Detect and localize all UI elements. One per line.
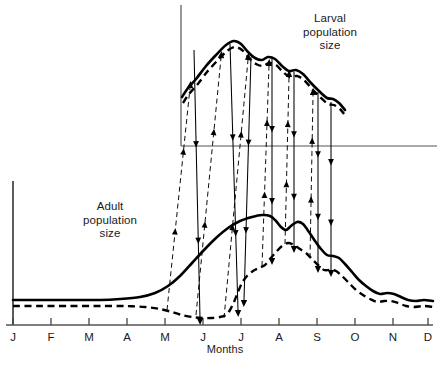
arrowhead	[202, 221, 208, 228]
figure-canvas	[0, 0, 437, 367]
x-tick-label-2: M	[81, 331, 97, 343]
arrowhead	[180, 148, 186, 155]
recruitment-arrow	[196, 58, 221, 315]
arrowhead	[291, 194, 297, 200]
x-axis-ticks	[13, 318, 428, 325]
x-axis-title: Months	[182, 343, 268, 356]
arrowhead	[230, 134, 236, 141]
arrowhead	[328, 220, 334, 226]
arrowhead	[238, 131, 244, 138]
arrowhead	[233, 230, 239, 237]
population-cycle-figure: Larval population size Adult population …	[0, 0, 437, 367]
larval-population-label: Larval population size	[272, 12, 388, 53]
arrowhead	[315, 151, 321, 157]
x-tick-label-10: N	[385, 331, 401, 343]
recruitment-arrow	[285, 77, 289, 244]
arrowhead	[291, 131, 297, 137]
arrowhead	[328, 159, 334, 165]
larval-dashed-curve	[183, 47, 344, 114]
arrowhead	[284, 181, 290, 188]
x-tick-label-0: J	[5, 331, 21, 343]
x-tick-label-1: F	[43, 331, 59, 343]
x-tick-label-4: M	[157, 331, 173, 343]
arrowhead-terminal	[235, 310, 242, 317]
arrowhead	[269, 198, 275, 204]
arrowhead	[308, 196, 314, 203]
x-tick-label-7: A	[271, 331, 287, 343]
x-tick-label-9: O	[347, 331, 363, 343]
adult-dashed-curve	[13, 243, 433, 318]
x-tick-label-11: D	[420, 331, 436, 343]
x-tick-label-6: J	[233, 331, 249, 343]
recruitment-arrow	[262, 66, 269, 266]
arrowhead	[285, 121, 291, 128]
emergence-arrow	[230, 44, 238, 310]
arrowhead	[246, 140, 252, 147]
arrowhead	[262, 192, 268, 199]
x-tick-label-3: A	[119, 331, 135, 343]
x-tick-label-8: S	[309, 331, 325, 343]
emergence-arrow	[194, 50, 200, 318]
arrowhead	[211, 128, 217, 135]
arrowhead	[195, 238, 201, 245]
x-tick-label-5: J	[195, 331, 211, 343]
arrowhead-terminal	[241, 300, 248, 307]
arrowhead	[172, 228, 178, 235]
arrowhead	[269, 126, 275, 132]
adult-population-label: Adult population size	[58, 200, 162, 241]
arrowhead	[264, 120, 270, 127]
arrowhead	[315, 214, 321, 220]
arrowhead-terminal	[315, 266, 321, 273]
arrowhead	[309, 137, 315, 144]
arrowhead	[243, 227, 249, 234]
